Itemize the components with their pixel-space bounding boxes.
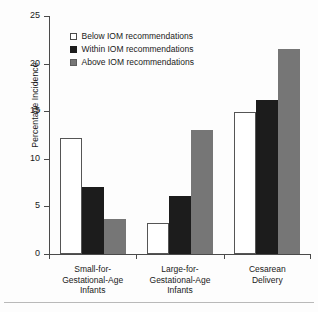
y-axis-tick-label: 0 bbox=[35, 248, 40, 258]
bar[interactable] bbox=[234, 112, 256, 254]
chart-legend: Below IOM recommendationsWithin IOM reco… bbox=[70, 31, 194, 70]
x-axis-tick bbox=[49, 254, 50, 259]
bar-chart-figure: Percentage Incidence 0510152025 Small-fo… bbox=[0, 0, 318, 312]
x-axis-category-label: Small-for-Gestational-AgeInfants bbox=[49, 264, 136, 296]
x-axis-line bbox=[49, 254, 311, 255]
x-axis-category-label-line: Gestational-Age bbox=[49, 275, 136, 286]
y-axis-tick-label: 20 bbox=[30, 58, 40, 68]
x-axis-tick bbox=[136, 254, 137, 259]
legend-item-label: Below IOM recommendations bbox=[82, 31, 194, 43]
x-axis-category-label-line: Infants bbox=[136, 285, 223, 296]
legend-swatch-within-icon bbox=[70, 46, 77, 53]
x-axis-category-label-line: Gestational-Age bbox=[136, 275, 223, 286]
legend-item-label: Within IOM recommendations bbox=[82, 44, 194, 56]
legend-swatch-above-icon bbox=[70, 59, 77, 66]
x-axis-category-label-line: Small-for- bbox=[49, 264, 136, 275]
legend-item[interactable]: Above IOM recommendations bbox=[70, 57, 194, 69]
legend-item-label: Above IOM recommendations bbox=[82, 57, 194, 69]
x-axis-category-label-line: Infants bbox=[49, 285, 136, 296]
bottom-divider bbox=[4, 302, 314, 303]
x-axis-tick bbox=[310, 254, 311, 259]
x-axis-category-label-line: Cesarean bbox=[224, 264, 311, 275]
legend-item[interactable]: Below IOM recommendations bbox=[70, 31, 194, 43]
x-axis-category-label-line: Delivery bbox=[224, 275, 311, 286]
x-axis-category-label-line: Large-for- bbox=[136, 264, 223, 275]
y-axis-tick-label: 5 bbox=[35, 200, 40, 210]
y-axis-tick-label: 10 bbox=[30, 153, 40, 163]
bar[interactable] bbox=[256, 100, 278, 254]
y-axis-tick-label: 25 bbox=[30, 10, 40, 20]
x-axis-tick bbox=[224, 254, 225, 259]
legend-item[interactable]: Within IOM recommendations bbox=[70, 44, 194, 56]
legend-swatch-below-icon bbox=[70, 33, 77, 40]
x-axis-category-label: Large-for-Gestational-AgeInfants bbox=[136, 264, 223, 296]
bar[interactable] bbox=[278, 49, 300, 254]
y-axis-tick-label: 15 bbox=[30, 105, 40, 115]
x-axis-category-label: CesareanDelivery bbox=[224, 264, 311, 285]
